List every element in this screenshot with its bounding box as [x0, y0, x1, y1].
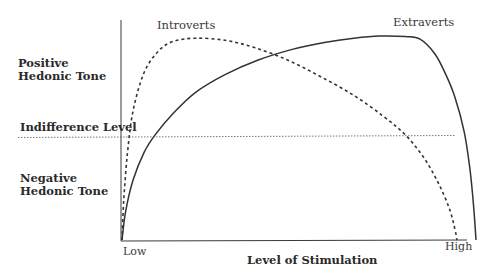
x-tick-low: Low — [123, 245, 146, 258]
diagram-canvas — [0, 0, 482, 273]
introverts-label: Introverts — [157, 18, 215, 32]
positive-hedonic-tone-label: Positive Hedonic Tone — [18, 57, 108, 83]
positive-label-text: Positive Hedonic Tone — [18, 57, 108, 83]
extraverts-label: Extraverts — [393, 15, 454, 29]
negative-label-text: Negative Hedonic Tone — [20, 172, 110, 198]
indifference-line — [18, 136, 455, 138]
indifference-level-label: Indifference Level — [20, 121, 137, 134]
x-tick-high: High — [445, 240, 472, 253]
introverts-curve — [122, 38, 457, 240]
x-axis — [121, 240, 467, 241]
extraverts-curve — [122, 36, 476, 240]
negative-hedonic-tone-label: Negative Hedonic Tone — [20, 172, 110, 198]
x-axis-title: Level of Stimulation — [247, 254, 377, 267]
